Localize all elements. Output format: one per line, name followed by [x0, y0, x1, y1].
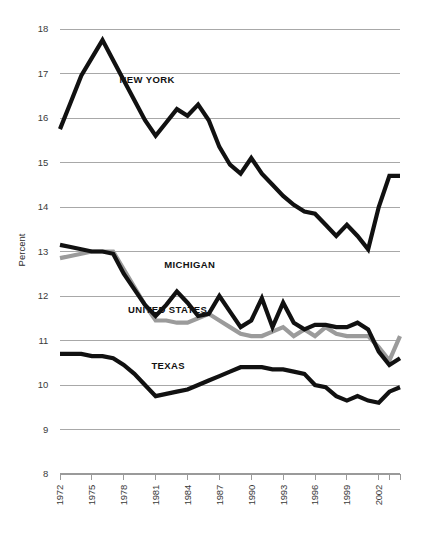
x-axis-tick-label: 1978: [118, 485, 129, 505]
x-axis-tick-label: 1999: [341, 485, 352, 505]
y-axis-tick-label: 14: [38, 201, 48, 212]
x-axis-tick-label: 1972: [54, 485, 65, 505]
y-axis-tick-label: 10: [38, 379, 48, 390]
y-axis-title-text: Percent: [16, 233, 27, 266]
series-line-new-york: [60, 40, 400, 249]
x-axis-tick-label: 1981: [150, 485, 161, 505]
y-axis-tick-label: 13: [38, 246, 48, 257]
y-axis-tick-labels: 18171615141312111098: [38, 23, 48, 479]
series-label-texas: TEXAS: [151, 360, 185, 371]
y-axis-tick-label: 11: [39, 335, 48, 346]
y-axis-title: Percent: [16, 233, 27, 266]
y-axis-tick-label: 9: [43, 424, 48, 435]
x-axis-tick-label: 2002: [373, 485, 384, 505]
series-label-united-states: UNITED STATES: [128, 304, 207, 315]
series-label-michigan: MICHIGAN: [164, 259, 215, 270]
chart-canvas: 18171615141312111098 1972197519781981198…: [0, 0, 421, 533]
x-axis-tick-label: 1984: [182, 485, 193, 505]
x-axis-tick-labels: 1972197519781981198419871990199319961999…: [54, 485, 384, 505]
series-label-new-york: NEW YORK: [120, 74, 175, 85]
y-axis-tick-label: 12: [38, 290, 48, 301]
data-series: [60, 40, 400, 403]
series-line-michigan: [60, 245, 400, 365]
line-chart: 18171615141312111098 1972197519781981198…: [0, 0, 421, 533]
x-axis-tick-label: 1993: [278, 485, 289, 505]
x-axis-tick-label: 1996: [309, 485, 320, 505]
series-line-united-states: [60, 252, 400, 361]
series-line-texas: [60, 354, 400, 403]
y-axis-tick-label: 18: [38, 23, 48, 34]
x-axis-tick-label: 1975: [86, 485, 97, 505]
y-axis-tick-label: 16: [38, 112, 48, 123]
y-axis-tick-label: 17: [38, 68, 48, 79]
x-axis: [60, 474, 400, 480]
x-axis-tick-label: 1987: [214, 485, 225, 505]
y-axis-tick-label: 15: [38, 157, 48, 168]
y-axis-tick-label: 8: [43, 468, 48, 479]
x-axis-tick-label: 1990: [246, 485, 257, 505]
